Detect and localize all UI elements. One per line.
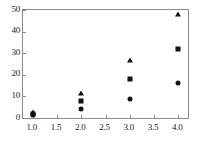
plot-area xyxy=(23,10,188,118)
y-axis-tick xyxy=(23,96,26,97)
x-axis-tick-label: 1.5 xyxy=(43,123,69,132)
x-axis-tick-label: 2.5 xyxy=(92,123,118,132)
x-axis-tick xyxy=(57,115,58,118)
y-axis-tick xyxy=(23,75,26,76)
data-point-circle xyxy=(30,113,35,118)
data-point-circle xyxy=(79,107,84,112)
y-axis-tick xyxy=(23,10,26,11)
data-point-triangle xyxy=(127,57,133,62)
y-axis-tick-label: 20 xyxy=(0,69,20,78)
x-axis-tick xyxy=(178,115,179,118)
y-axis-tick-label: 10 xyxy=(0,91,20,100)
x-axis-tick-labels: 1.01.52.02.53.03.54.0 xyxy=(22,123,189,135)
x-axis-tick-label: 3.0 xyxy=(116,123,142,132)
x-axis-tick-label: 2.0 xyxy=(67,123,93,132)
y-axis-tick-label: 40 xyxy=(0,26,20,35)
x-axis-tick xyxy=(154,115,155,118)
scatter-chart: 01020304050 1.01.52.02.53.03.54.0 xyxy=(0,0,201,145)
x-axis-tick xyxy=(81,115,82,118)
plot-frame xyxy=(22,9,189,119)
x-axis-tick-label: 1.0 xyxy=(19,123,45,132)
y-axis-tick-label: 30 xyxy=(0,48,20,57)
data-point-circle xyxy=(176,81,181,86)
y-axis-tick xyxy=(23,118,26,119)
y-axis-tick xyxy=(23,32,26,33)
data-point-triangle xyxy=(175,12,181,17)
x-axis-tick-label: 4.0 xyxy=(164,123,190,132)
y-axis-tick-label: 50 xyxy=(0,5,20,14)
data-point-circle xyxy=(127,96,132,101)
y-axis-tick xyxy=(23,53,26,54)
y-axis-tick-labels: 01020304050 xyxy=(0,9,20,119)
x-axis-tick xyxy=(106,115,107,118)
data-point-triangle xyxy=(78,91,84,96)
x-axis-tick-label: 3.5 xyxy=(140,123,166,132)
y-axis-tick-label: 0 xyxy=(0,113,20,122)
data-point-square xyxy=(176,47,181,52)
x-axis-tick xyxy=(130,115,131,118)
data-point-square xyxy=(79,98,84,103)
data-point-square xyxy=(127,77,132,82)
